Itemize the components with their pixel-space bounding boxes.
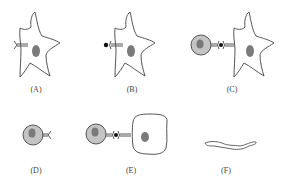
- panel-label-e: (E): [126, 166, 136, 175]
- panel-label-c: (C): [227, 85, 238, 94]
- nucleus-icon: [29, 129, 36, 138]
- diagram-canvas: [0, 0, 281, 185]
- panel-d-lymphocyte: [23, 125, 51, 145]
- panel-f-cell-remnant: [205, 142, 256, 150]
- panel-label-a: (A): [30, 85, 41, 94]
- nucleus-icon: [127, 45, 135, 57]
- antigen-icon: [219, 43, 223, 47]
- receptor-icon: [106, 131, 131, 139]
- panel-a-dendritic-cell: [14, 12, 60, 77]
- nucleus-icon: [92, 128, 99, 137]
- nucleus-icon: [246, 45, 254, 57]
- panel-label-b: (B): [127, 85, 138, 94]
- panel-b-dendritic-cell: [104, 12, 155, 77]
- antigen-icon: [104, 43, 108, 47]
- panel-e-cell-interaction: [86, 114, 167, 154]
- panel-c-cell-interaction: [191, 12, 274, 77]
- panel-label-d: (D): [30, 166, 41, 175]
- nucleus-icon: [32, 45, 40, 57]
- nucleus-icon: [197, 40, 204, 49]
- panel-label-f: (F): [221, 166, 231, 175]
- antigen-icon: [114, 133, 118, 137]
- nucleus-icon: [141, 132, 149, 142]
